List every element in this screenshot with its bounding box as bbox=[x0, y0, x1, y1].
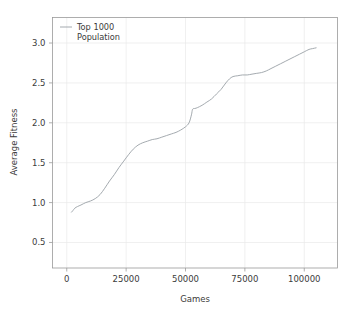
y-tick-label: 0.5 bbox=[32, 237, 46, 247]
x-axis-tick-labels: 0250005000075000100000 bbox=[64, 274, 320, 284]
gridlines bbox=[53, 18, 338, 269]
y-tick-label: 1.5 bbox=[32, 158, 46, 168]
x-tick-label: 0 bbox=[64, 274, 69, 284]
plot-spines bbox=[53, 18, 338, 269]
y-axis-tick-labels: 0.51.01.52.02.53.0 bbox=[32, 38, 46, 247]
series-group bbox=[72, 48, 317, 212]
plot-border bbox=[53, 18, 338, 269]
x-tick-label: 25000 bbox=[113, 274, 140, 284]
chart-figure: 0250005000075000100000 0.51.01.52.02.53.… bbox=[0, 0, 361, 318]
y-tick-label: 3.0 bbox=[32, 38, 46, 48]
chart-legend: Top 1000 Population bbox=[60, 22, 120, 42]
legend-label-line1: Top 1000 bbox=[76, 22, 114, 32]
x-tick-label: 75000 bbox=[231, 274, 258, 284]
y-tickmarks bbox=[49, 43, 53, 242]
x-gridlines bbox=[67, 18, 305, 269]
y-axis-title: Average Fitness bbox=[9, 108, 19, 176]
x-axis-title: Games bbox=[180, 294, 210, 304]
x-tickmarks bbox=[67, 268, 305, 272]
x-tick-label: 100000 bbox=[288, 274, 320, 284]
x-tick-label: 50000 bbox=[172, 274, 199, 284]
series-line-top-1000-population bbox=[72, 48, 317, 212]
y-tick-label: 2.0 bbox=[32, 118, 46, 128]
y-gridlines bbox=[53, 43, 338, 242]
line-chart-canvas: 0250005000075000100000 0.51.01.52.02.53.… bbox=[0, 0, 361, 318]
y-tick-label: 1.0 bbox=[32, 198, 46, 208]
y-tick-label: 2.5 bbox=[32, 78, 46, 88]
legend-label-line2: Population bbox=[77, 32, 120, 42]
